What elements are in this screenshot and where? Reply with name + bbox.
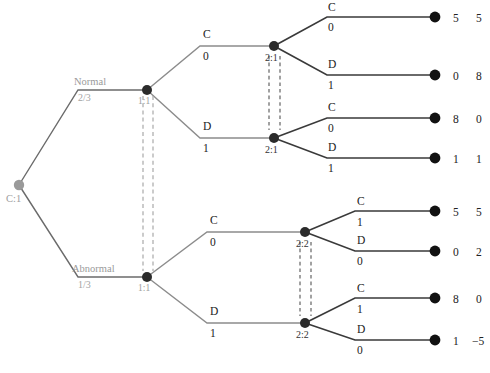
terminal-node-t3[interactable] <box>430 113 441 124</box>
p1-edge-abnormal-C <box>147 232 305 277</box>
decision-node-p2-ad[interactable] <box>300 318 310 328</box>
p2-signal-nd-D: 1 <box>328 162 334 174</box>
p1-edge-normal-C <box>147 46 274 90</box>
decision-node-p2-nd-label: 2:1 <box>265 144 278 155</box>
payoff-t6-p2: 2 <box>476 246 482 258</box>
p1-action-normal-D: D <box>203 120 211 132</box>
decision-node-p1-abnormal[interactable] <box>142 272 152 282</box>
decision-node-p1-normal[interactable] <box>142 85 152 95</box>
p2-edge-ad-C <box>305 298 435 323</box>
payoff-t1-p1: 5 <box>453 12 459 24</box>
payoff-t5-p2: 5 <box>476 206 482 218</box>
terminal-node-t2[interactable] <box>430 70 441 81</box>
p2-action-ad-D: D <box>357 323 365 335</box>
payoff-t1-p2: 5 <box>476 12 482 24</box>
p1-action-abnormal-D: D <box>210 305 218 317</box>
payoff-t4-p2: 1 <box>476 153 482 165</box>
game-tree-canvas: C:1 Normal 2/3 Abnormal 1/3 1:1 1:1 2:1 … <box>0 0 490 373</box>
chance-node-root[interactable] <box>14 180 24 190</box>
p2-edge-ad-D <box>305 323 435 340</box>
payoff-t2-p2: 8 <box>476 70 482 82</box>
chance-branch-prob-normal: 2/3 <box>78 92 91 103</box>
p2-action-ac-C: C <box>357 195 365 207</box>
decision-node-p2-nc-label: 2:1 <box>265 52 278 63</box>
p2-signal-ad-C: 1 <box>357 303 363 315</box>
decision-node-p1-normal-label: 1:1 <box>138 96 150 106</box>
decision-node-p2-ad-label: 2:2 <box>296 329 309 340</box>
payoff-t8-p1: 1 <box>453 335 459 347</box>
p2-signal-ac-D: 0 <box>357 255 363 267</box>
player2-edges <box>274 17 435 340</box>
information-set-player2-normal <box>269 56 280 130</box>
payoff-t7-p2: 0 <box>476 293 482 305</box>
chance-branch-prob-abnormal: 1/3 <box>78 279 91 290</box>
p2-signal-nc-D: 1 <box>328 79 334 91</box>
p2-edge-ac-D <box>305 232 435 251</box>
p1-signal-abnormal-D: 1 <box>210 327 216 339</box>
p2-action-ac-D: D <box>357 234 365 246</box>
chance-branch-label-abnormal: Abnormal <box>72 263 115 274</box>
payoff-t5-p1: 5 <box>453 206 459 218</box>
p2-action-nc-D: D <box>328 58 336 70</box>
p1-signal-normal-C: 0 <box>203 50 209 62</box>
payoff-t8-p2: −5 <box>472 335 484 347</box>
terminal-node-t4[interactable] <box>430 153 441 164</box>
payoff-t2-p1: 0 <box>453 70 459 82</box>
decision-node-p2-ac[interactable] <box>300 227 310 237</box>
p2-edge-nc-D <box>274 46 435 75</box>
decision-node-p2-nc[interactable] <box>269 41 279 51</box>
payoff-t7-p1: 8 <box>453 293 459 305</box>
chance-edges <box>19 90 147 277</box>
p1-signal-normal-D: 1 <box>203 142 209 154</box>
decision-node-p1-abnormal-label: 1:1 <box>138 283 150 293</box>
chance-edge-normal <box>19 90 147 185</box>
p2-action-ad-C: C <box>357 282 365 294</box>
p2-edge-nd-D <box>274 138 435 158</box>
terminal-node-t1[interactable] <box>430 12 441 23</box>
p2-edge-nd-C <box>274 118 435 138</box>
terminal-node-t7[interactable] <box>430 293 441 304</box>
terminal-node-t5[interactable] <box>430 206 441 217</box>
decision-node-p2-ac-label: 2:2 <box>296 238 309 249</box>
chance-branch-label-normal: Normal <box>74 76 106 87</box>
p2-signal-nc-C: 0 <box>328 21 334 33</box>
p2-action-nd-C: C <box>328 101 336 113</box>
p2-edge-ac-C <box>305 211 435 232</box>
player1-edges <box>147 46 305 323</box>
payoff-t3-p2: 0 <box>476 113 482 125</box>
p1-signal-abnormal-C: 0 <box>210 236 216 248</box>
game-tree-diagram: C:1 Normal 2/3 Abnormal 1/3 1:1 1:1 2:1 … <box>0 0 490 373</box>
p2-signal-nd-C: 0 <box>328 122 334 134</box>
terminal-node-t6[interactable] <box>430 246 441 257</box>
p1-edge-abnormal-D <box>147 277 305 323</box>
p1-action-abnormal-C: C <box>210 214 218 226</box>
p2-signal-ac-C: 1 <box>357 216 363 228</box>
p2-action-nd-D: D <box>328 141 336 153</box>
payoff-t4-p1: 1 <box>453 153 459 165</box>
payoff-t6-p1: 0 <box>453 246 459 258</box>
p1-action-normal-C: C <box>203 28 211 40</box>
p2-signal-ad-D: 0 <box>357 344 363 356</box>
terminal-node-t8[interactable] <box>430 335 441 346</box>
decision-node-p2-nd[interactable] <box>269 133 279 143</box>
p2-edge-nc-C <box>274 17 435 46</box>
payoff-t3-p1: 8 <box>453 113 459 125</box>
information-set-player1 <box>143 96 153 271</box>
information-set-player2-abnormal <box>300 242 311 316</box>
p2-action-nc-C: C <box>328 1 336 13</box>
chance-node-root-label: C:1 <box>6 193 21 204</box>
